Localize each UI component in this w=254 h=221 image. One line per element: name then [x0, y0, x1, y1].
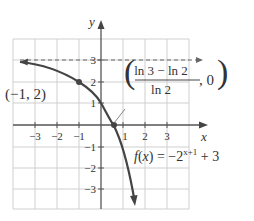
- y-tick-label: 1: [91, 97, 97, 109]
- x-tick-label: −1: [73, 130, 85, 142]
- y-axis-label: y: [87, 14, 95, 29]
- y-tick-label: −2: [84, 162, 96, 174]
- function-label: f(x) = −2x+1 + 3: [134, 147, 219, 165]
- y-tick-label: −3: [84, 183, 96, 195]
- y-axis: [98, 20, 105, 209]
- asymptote-arrow-icon: [196, 57, 203, 63]
- y-axis-arrow-icon: [98, 20, 105, 29]
- x-axis-label: x: [200, 129, 207, 144]
- x-tick-label: 3: [164, 130, 170, 142]
- right-paren: ): [217, 53, 228, 91]
- fraction-denominator: ln 2: [151, 82, 171, 97]
- x-tick-labels: −3 −2 −1 1 2 3: [29, 130, 170, 142]
- function-tail: + 3: [197, 149, 219, 164]
- curve-down-arrow-icon: [130, 195, 138, 206]
- y-tick-label: −1: [84, 141, 96, 153]
- svg-text:f(x) = −2x+1 + 3: f(x) = −2x+1 + 3: [134, 147, 219, 165]
- x-axis: [13, 122, 208, 129]
- function-exponent: x+1: [183, 147, 197, 157]
- fraction-numerator: ln 3 − ln 2: [134, 63, 188, 78]
- x-tick-label: 2: [142, 130, 148, 142]
- y-tick-label: 3: [91, 54, 97, 66]
- x-tick-label: −2: [51, 130, 63, 142]
- x-axis-arrow-icon: [199, 122, 208, 129]
- point-label-a: (−1, 2): [5, 86, 46, 103]
- x-tick-label: 1: [122, 130, 128, 142]
- x-tick-label: −3: [29, 130, 41, 142]
- point-b-tail: , 0: [199, 72, 214, 88]
- y-tick-label: 2: [91, 76, 97, 88]
- point-marker: [76, 79, 82, 85]
- function-graph: −3 −2 −1 1 2 3 3 2 1 −1 −2 −3 y x (−1, 2…: [0, 0, 254, 221]
